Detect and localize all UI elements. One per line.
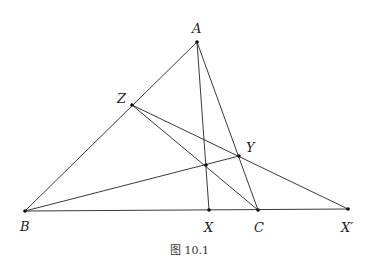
segment-AB: [25, 42, 197, 211]
point-Y: [237, 154, 241, 158]
points: [23, 40, 350, 213]
geometry-figure: A Z Y B X C X′ 图 10.1: [0, 0, 374, 277]
point-A: [195, 40, 199, 44]
segments: [25, 42, 348, 211]
label-Y: Y: [246, 140, 256, 155]
label-X: X: [203, 220, 214, 235]
figure-caption: 图 10.1: [170, 244, 209, 257]
segment-AX: [197, 42, 209, 210]
point-C: [256, 208, 260, 212]
label-A: A: [191, 21, 201, 36]
segment-BXprime: [25, 209, 348, 211]
label-Xprime: X′: [340, 220, 353, 235]
label-Z: Z: [116, 91, 127, 106]
label-B: B: [19, 219, 30, 234]
point-Z: [130, 103, 134, 107]
point-X: [207, 208, 211, 212]
point-Xprime: [346, 207, 350, 211]
point-B: [23, 209, 27, 213]
label-C: C: [254, 220, 264, 235]
point-concurrency: [204, 163, 208, 167]
